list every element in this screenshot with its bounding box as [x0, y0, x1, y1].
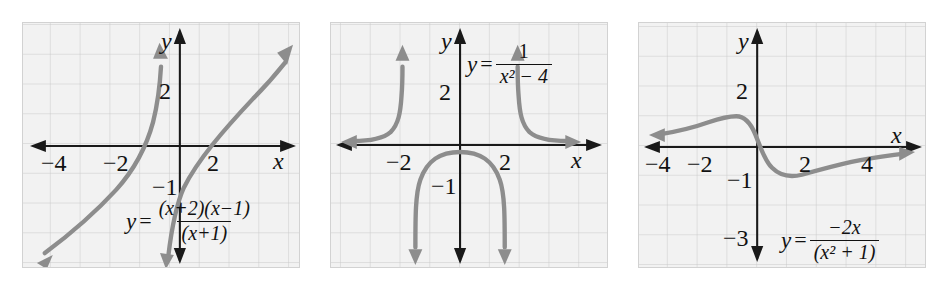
panel-1-xtick-2: 2	[207, 151, 219, 175]
panel-2-ytick-2: 2	[439, 80, 451, 104]
panel-2-eq-numerator: 1	[515, 41, 533, 64]
panel-1-eq-numerator: (x+2)(x−1)	[155, 198, 254, 221]
panel-3-eq-numerator: −2x	[824, 217, 864, 240]
panel-1-xaxis-label: x	[273, 149, 284, 173]
panel-3-eq-equals: =	[794, 229, 806, 251]
panel-3-eq-denominator: (x² + 1)	[810, 240, 880, 264]
panel-3-xtick--2: −2	[687, 152, 713, 176]
panel-1-eq-denominator: (x+1)	[177, 221, 231, 245]
panel-2-ytick--1: −1	[431, 174, 457, 198]
panel-1-equation: y = (x+2)(x−1) (x+1)	[126, 198, 254, 244]
panel-1-ytick--1: −1	[152, 175, 178, 199]
panel-3-xtick--4: −4	[645, 152, 671, 176]
panel-2-xtick--2: −2	[386, 150, 412, 174]
panel-3-yaxis-label: y	[738, 29, 749, 53]
figure-sheet: −4 −2 2 −1 2 x y y = (x+2)(x−1) (x+1)	[0, 0, 945, 290]
panel-3-xtick-4: 4	[861, 152, 873, 176]
panel-1-yaxis-label: y	[161, 29, 172, 53]
panel-3-ytick-2: 2	[736, 79, 748, 103]
panel-3-xtick-2: 2	[799, 152, 811, 176]
panel-1-xtick--4: −4	[41, 151, 67, 175]
panel-3-eq-lhs: y	[781, 229, 791, 252]
panel-3-equation: y = −2x (x² + 1)	[781, 217, 879, 263]
panel-1-xtick--2: −2	[103, 151, 129, 175]
panel-3-ytick--3: −3	[723, 226, 749, 250]
panel-3-eq-fraction: −2x (x² + 1)	[810, 217, 880, 263]
panel-1-eq-equals: =	[139, 210, 151, 232]
panel-1-ytick-2: 2	[159, 79, 171, 103]
panel-1-eq-fraction: (x+2)(x−1) (x+1)	[155, 198, 254, 244]
panel-1-eq-lhs: y	[126, 210, 136, 233]
panel-3-xaxis-label: x	[891, 123, 902, 147]
panel-2-equation: y = 1 x² − 4	[467, 41, 552, 87]
panel-3-ytick--1: −1	[727, 168, 753, 192]
graph-panel-3: −4 −2 2 4 2 −1 −3 x y y = −2x (x² + 1)	[638, 22, 926, 268]
panel-2-eq-equals: =	[480, 53, 492, 75]
panel-2-xtick-2: 2	[499, 150, 511, 174]
graph-panel-2: −2 2 2 −1 x y y = 1 x² − 4	[330, 22, 608, 268]
panel-2-xaxis-label: x	[571, 148, 582, 172]
panel-2-eq-fraction: 1 x² − 4	[496, 41, 552, 87]
panel-2-yaxis-label: y	[441, 29, 452, 53]
panel-2-eq-denominator: x² − 4	[496, 64, 552, 88]
panel-2-eq-lhs: y	[467, 53, 477, 76]
